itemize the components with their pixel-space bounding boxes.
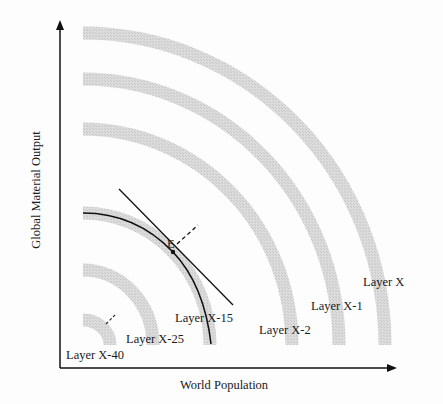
x-axis-arrow-icon [387,364,397,372]
x-axis-label: World Population [180,378,269,392]
label-layer-x-15: Layer X-15 [175,311,233,325]
label-layer-x: Layer X [363,275,404,289]
diagram-svg: E Layer X Layer X-1 Layer X-2 Layer X-15… [0,0,443,404]
label-layer-x-40: Layer X-40 [66,348,124,362]
label-layer-x-2: Layer X-2 [259,323,311,337]
label-layer-x-25: Layer X-25 [126,332,184,346]
band-layer-x-1 [83,79,339,345]
layer-x-40-dash [106,315,115,324]
diagram-canvas: E Layer X Layer X-1 Layer X-2 Layer X-15… [0,0,443,404]
point-e-dashed-line [177,225,198,244]
y-axis-label: Global Material Output [29,131,43,249]
y-axis-arrow-icon [56,20,64,30]
label-layer-x-1: Layer X-1 [311,299,363,313]
point-e-label: E [167,237,175,251]
